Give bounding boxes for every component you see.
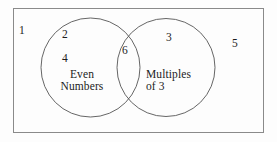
multiples-of-3-set-label: Multiples of 3 xyxy=(146,68,210,93)
venn-diagram-root: 1 2 4 6 3 5 Even Numbers Multiples of 3 xyxy=(0,0,277,142)
element-label-2-even-only: 2 xyxy=(62,28,68,40)
element-label-6-intersection: 6 xyxy=(122,44,128,56)
multiples-of-3-set-label-line1: Multiples xyxy=(146,68,210,80)
even-numbers-set-label-line1: Even xyxy=(52,68,112,80)
even-numbers-set-label-line2: Numbers xyxy=(52,80,112,92)
venn-diagram-svg xyxy=(0,0,277,142)
multiples-of-3-set-label-line2: of 3 xyxy=(146,80,210,92)
element-label-3-multiples-only: 3 xyxy=(166,31,172,43)
element-label-4-even-only: 4 xyxy=(62,52,68,64)
element-label-5-outside: 5 xyxy=(232,37,238,49)
element-label-1-outside: 1 xyxy=(19,24,25,36)
even-numbers-set-label: Even Numbers xyxy=(52,68,112,93)
